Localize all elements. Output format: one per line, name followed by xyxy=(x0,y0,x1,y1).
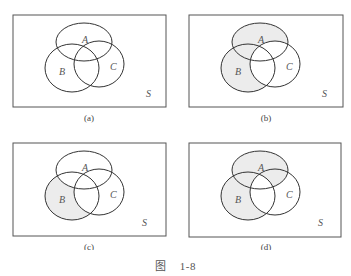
set-b-label: B xyxy=(59,66,65,77)
panel-label: (a) xyxy=(84,113,94,123)
venn-figure: A B C S (a) A B C S (b) A B C S (c) xyxy=(0,0,351,250)
venn-panel-c: A B C S (c) xyxy=(13,143,166,250)
venn-panel-a: A B C S (a) xyxy=(13,15,166,123)
set-c-label: C xyxy=(110,189,117,200)
set-c-label: C xyxy=(110,61,117,72)
venn-panel-d: A B C S (d) xyxy=(189,143,341,250)
caption-prefix: 图 xyxy=(155,257,167,273)
set-a-label: A xyxy=(81,34,89,45)
figure-caption: 图 1-8 xyxy=(0,257,351,273)
set-b-ellipse xyxy=(45,44,99,92)
set-a-label: A xyxy=(257,34,265,45)
set-b-label: B xyxy=(235,194,241,205)
set-a-label: A xyxy=(81,162,89,173)
set-c-label: C xyxy=(286,189,293,200)
universe-label: S xyxy=(318,217,323,228)
set-b-label: B xyxy=(235,66,241,77)
set-b-label: B xyxy=(59,194,65,205)
shaded-region xyxy=(221,23,288,92)
shaded-region xyxy=(221,151,288,220)
set-a-label: A xyxy=(257,162,265,173)
caption-number: 1-8 xyxy=(180,260,196,272)
universe-label: S xyxy=(322,88,327,99)
set-c-label: C xyxy=(286,61,293,72)
universe-label: S xyxy=(142,217,147,228)
venn-panel-b: A B C S (b) xyxy=(189,15,343,123)
panel-label: (b) xyxy=(261,113,272,123)
panel-label: (c) xyxy=(84,242,94,250)
universe-label: S xyxy=(146,88,151,99)
panel-label: (d) xyxy=(261,242,272,250)
